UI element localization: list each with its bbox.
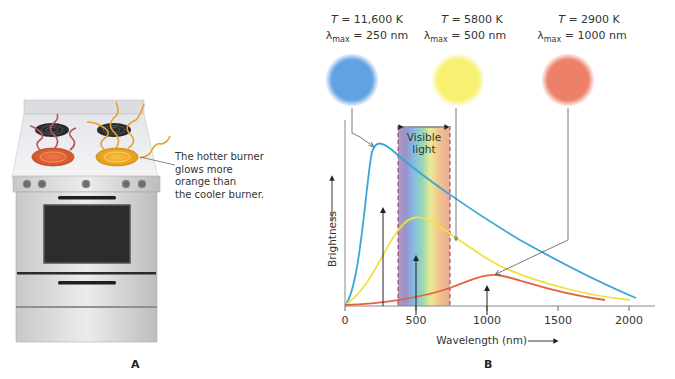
callout-line: orange than — [175, 176, 264, 189]
curve-11600K — [345, 144, 636, 306]
x-tick: 1000 — [467, 314, 507, 327]
callout-line: The hotter burner — [175, 151, 264, 164]
y-axis-label: Brightness — [326, 209, 338, 269]
x-tick: 2000 — [609, 314, 649, 327]
x-axis-label: Wavelength (nm) — [432, 334, 527, 346]
x-tick: 500 — [401, 314, 431, 327]
x-tick: 1500 — [538, 314, 578, 327]
x-tick: 0 — [335, 314, 355, 327]
cooler-burner — [32, 148, 74, 166]
star-label-2900K: T = 2900 K λmax = 1000 nm — [522, 13, 642, 44]
star-disc-yellow — [431, 53, 485, 107]
star-label-11600K: T = 11,600 K λmax = 250 nm — [312, 13, 422, 44]
callout-line: the cooler burner. — [175, 189, 264, 202]
stove-knobs — [23, 180, 146, 188]
star-disc-blue — [325, 53, 379, 107]
hotter-burner — [96, 148, 138, 166]
star-disc-red — [541, 53, 595, 107]
star-label-5800K: T = 5800 K λmax = 500 nm — [410, 13, 520, 44]
burner-callout: The hotter burner glows more orange than… — [175, 151, 264, 201]
callout-line: glows more — [175, 164, 264, 177]
curve-2900K — [345, 275, 605, 305]
panel-label-a: A — [131, 358, 140, 371]
visible-light-label: Visible light — [398, 131, 450, 155]
panel-label-b: B — [484, 358, 492, 371]
